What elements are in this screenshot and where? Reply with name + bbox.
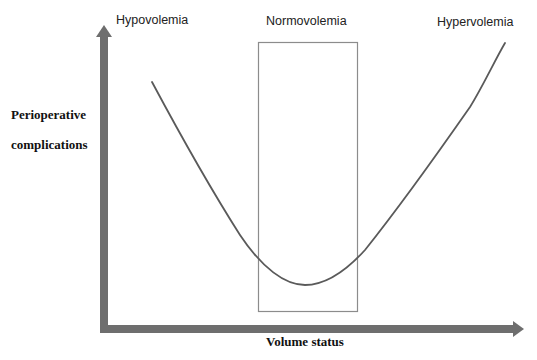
y-axis-arrow	[96, 25, 112, 333]
y-axis-label-line2: complications	[11, 137, 88, 153]
complications-curve	[152, 43, 505, 285]
hypervolemia-label: Hypervolemia	[437, 15, 513, 29]
diagram-canvas	[0, 0, 537, 360]
y-axis-label-line1: Perioperative	[11, 107, 86, 123]
normovolemia-label: Normovolemia	[266, 14, 347, 28]
x-axis-label: Volume status	[266, 334, 344, 350]
hypovolemia-label: Hypovolemia	[116, 13, 188, 27]
